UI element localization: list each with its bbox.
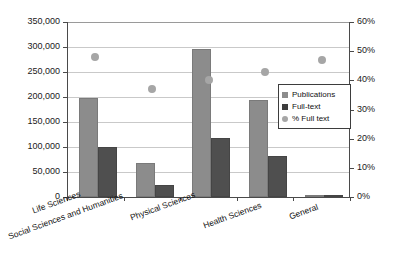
bar-fulltext-health-sciences: [268, 156, 287, 197]
legend-swatch-percent-fulltext-icon: [282, 116, 288, 122]
y2-tick-60: [350, 22, 354, 23]
chart-legend: Publications Full-text % Full text: [278, 84, 351, 129]
bar-publications-social-sciences-and-humanities: [136, 163, 155, 197]
y2-tick-50: [350, 51, 354, 52]
x-category-label-health-sciences: Health Sciences: [202, 201, 263, 230]
bar-publications-life-sciences: [79, 98, 98, 197]
marker-percent-fulltext-social-sciences-and-humanities: [148, 85, 156, 93]
y2-tick-20: [350, 139, 354, 140]
y2-axis-label-50: 50%: [357, 46, 391, 55]
legend-label-percent-fulltext: % Full text: [292, 115, 329, 123]
marker-percent-fulltext-life-sciences: [91, 53, 99, 61]
y2-tick-40: [350, 80, 354, 81]
bar-fulltext-social-sciences-and-humanities: [155, 185, 174, 198]
y-axis-label-350000: 350,000: [2, 17, 60, 26]
y-axis-label-100000: 100,000: [2, 142, 60, 151]
y2-axis-label-10: 10%: [357, 163, 391, 172]
y-axis-label-200000: 200,000: [2, 92, 60, 101]
y-axis-label-50000: 50,000: [2, 167, 60, 176]
x-category-label-general: General: [288, 203, 320, 222]
bar-fulltext-general: [324, 195, 343, 197]
marker-percent-fulltext-general: [318, 56, 326, 64]
legend-item-fulltext: Full-text: [282, 101, 348, 112]
y2-tick-10: [350, 168, 354, 169]
legend-swatch-publications-icon: [282, 92, 288, 98]
x-tick-3: [237, 197, 238, 201]
y-axis-label-150000: 150,000: [2, 117, 60, 126]
y2-axis-label-20: 20%: [357, 134, 391, 143]
marker-percent-fulltext-physical-sciences: [205, 76, 213, 84]
legend-swatch-fulltext-icon: [282, 104, 288, 110]
bar-fulltext-physical-sciences: [211, 138, 230, 197]
y2-axis-label-30: 30%: [357, 105, 391, 114]
bar-publications-physical-sciences: [192, 49, 211, 197]
y2-axis-label-0: 0%: [357, 192, 391, 201]
legend-label-publications: Publications: [292, 91, 335, 99]
bar-fulltext-life-sciences: [98, 147, 117, 197]
y2-axis-label-60: 60%: [357, 17, 391, 26]
marker-percent-fulltext-health-sciences: [261, 68, 269, 76]
y2-axis-label-40: 40%: [357, 75, 391, 84]
legend-item-percent-fulltext: % Full text: [282, 113, 348, 124]
chart-figure: 350,000 300,000 250,000 200,000 150,000 …: [0, 0, 394, 278]
bar-publications-health-sciences: [249, 100, 268, 197]
bar-publications-general: [305, 195, 324, 197]
x-tick-5: [350, 197, 351, 201]
y-axis-label-250000: 250,000: [2, 67, 60, 76]
legend-item-publications: Publications: [282, 89, 348, 100]
x-tick-4: [293, 197, 294, 201]
legend-label-fulltext: Full-text: [292, 103, 320, 111]
y-axis-label-300000: 300,000: [2, 42, 60, 51]
